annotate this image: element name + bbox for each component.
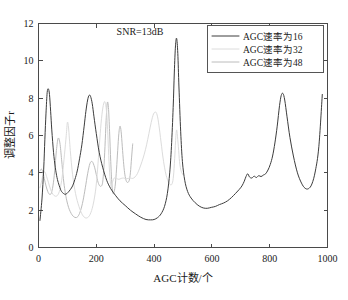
x-tick-label: 200 (89, 253, 104, 264)
x-tick-label: 1000 (318, 253, 338, 264)
y-tick-label: 4 (29, 167, 34, 178)
legend-label-agc-32: AGC速率为32 (243, 44, 303, 55)
y-tick-label: 2 (29, 205, 34, 216)
y-axis-title: 调整因子r (3, 111, 16, 159)
y-tick-label: 6 (29, 130, 34, 141)
chart-figure: 02004006008001000 024681012 AGC计数/个 调整因子… (0, 0, 348, 300)
snr-annotation: SNR=13dB (117, 26, 164, 37)
y-tick-label: 10 (24, 55, 34, 66)
x-tick-label: 800 (262, 253, 277, 264)
x-tick-label: 600 (204, 253, 219, 264)
x-tick-label: 400 (147, 253, 162, 264)
line-chart: 02004006008001000 024681012 AGC计数/个 调整因子… (0, 0, 348, 300)
x-axis-title: AGC计数/个 (153, 272, 212, 284)
y-tick-label: 8 (29, 93, 34, 104)
y-tick-label: 12 (24, 18, 34, 29)
legend-label-agc-48: AGC速率为48 (243, 57, 303, 68)
x-tick-label: 0 (36, 253, 41, 264)
legend: AGC速率为16 AGC速率为32 AGC速率为48 (208, 26, 324, 73)
legend-label-agc-16: AGC速率为16 (243, 31, 303, 42)
y-tick-label: 0 (29, 242, 34, 253)
